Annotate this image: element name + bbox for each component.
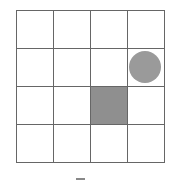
grid-world	[16, 10, 164, 162]
grid-cell	[90, 10, 128, 49]
grid-cell	[53, 10, 91, 49]
grid-cell	[53, 86, 91, 125]
grid-cell	[53, 124, 91, 163]
grid-cell	[16, 48, 54, 87]
grid-cell	[16, 86, 54, 125]
grid-cell	[127, 86, 165, 125]
grid-cell	[127, 10, 165, 49]
grid-cell	[127, 124, 165, 163]
grid-cell	[16, 124, 54, 163]
grid-cell	[53, 48, 91, 87]
action-indicator	[76, 178, 85, 180]
grid-cell	[90, 48, 128, 87]
grid-cell	[90, 124, 128, 163]
filled-cell	[90, 86, 128, 125]
grid-cell	[16, 10, 54, 49]
agent-circle	[129, 51, 161, 83]
